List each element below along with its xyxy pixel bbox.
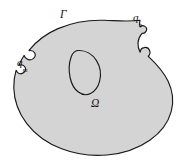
figure-container: Γ Ω qm qn	[0, 0, 183, 168]
domain-label-omega: Ω	[91, 98, 99, 110]
flux-label-q-m-base: q	[17, 56, 23, 68]
domain-diagram-svg	[0, 0, 183, 168]
flux-label-q-m: qm	[17, 53, 27, 72]
flux-label-q-n: qn	[133, 8, 142, 27]
flux-label-q-n-base: q	[133, 11, 139, 23]
flux-label-q-m-subscript: m	[23, 66, 28, 73]
boundary-label-gamma: Γ	[60, 9, 67, 21]
flux-label-q-n-subscript: n	[139, 21, 142, 28]
